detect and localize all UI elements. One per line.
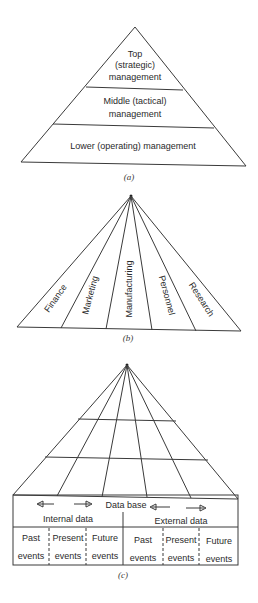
database-table: Data base Internal data External data Pa… (13, 495, 238, 580)
pyramid-c-divider-2 (102, 365, 127, 497)
internal-future-line1: Future (92, 533, 118, 543)
external-past-line1: Past (134, 535, 153, 545)
figure-a-pyramid: Top (strategic) management Middle (tacti… (21, 27, 246, 182)
level-middle-line2: management (109, 109, 162, 119)
level-top-line1: Top (128, 49, 143, 59)
figure-c-pyramid (13, 364, 238, 500)
pyramid-c-level-line-1 (78, 419, 176, 421)
pyramid-b-divider-3 (131, 196, 152, 330)
caption-c: (c) (118, 570, 128, 580)
external-present-line1: Present (165, 535, 197, 545)
internal-present-line1: Present (52, 533, 84, 543)
function-manufacturing: Manufacturing (124, 260, 134, 317)
external-present-line2: events (168, 553, 195, 563)
function-research: Research (187, 280, 216, 318)
external-data-label: External data (154, 516, 207, 526)
function-personnel: Personnel (157, 274, 177, 316)
caption-b: (b) (123, 333, 134, 343)
pyramid-a-divider-top (86, 87, 183, 90)
level-top-line2: (strategic) (115, 60, 155, 70)
level-middle-line1: Middle (tactical) (103, 96, 166, 106)
internal-past-line1: Past (22, 533, 41, 543)
function-finance: Finance (42, 282, 69, 314)
database-label: Data base (105, 500, 146, 510)
internal-present-line2: events (55, 551, 82, 561)
level-top-line3: management (109, 72, 162, 82)
internal-data-label: Internal data (43, 514, 93, 524)
arrow-right-2-icon (186, 505, 206, 511)
pyramid-b-divider-1 (61, 196, 131, 328)
level-lower-line1: Lower (operating) management (70, 141, 196, 151)
external-past-line2: events (130, 553, 157, 563)
arrow-right-1-icon (74, 501, 92, 507)
figure-b-pyramid: Finance Marketing Manufacturing Personne… (17, 195, 241, 344)
arrow-left-2-icon (150, 504, 170, 510)
pyramid-c-outline (13, 365, 238, 499)
pyramid-c-level-line-2 (45, 457, 208, 460)
caption-a: (a) (124, 172, 135, 182)
pyramid-a-divider-middle (53, 124, 214, 128)
external-future-line2: events (206, 554, 233, 564)
internal-past-line2: events (18, 551, 45, 561)
internal-future-line2: events (92, 551, 119, 561)
pyramid-c-divider-1 (57, 365, 127, 496)
external-future-line1: Future (206, 536, 232, 546)
arrow-left-1-icon (37, 501, 54, 507)
diagram-canvas: Top (strategic) management Middle (tacti… (0, 0, 258, 603)
function-marketing: Marketing (80, 275, 100, 316)
